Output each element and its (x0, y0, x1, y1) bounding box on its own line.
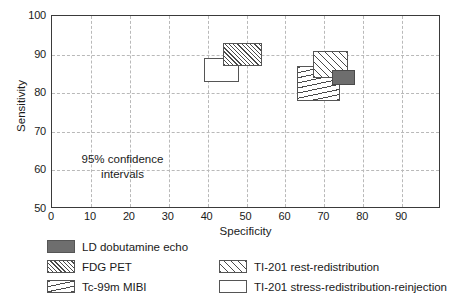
gridline-vertical (402, 16, 403, 207)
confidence-interval-annotation: 95% confidence intervals (60, 152, 185, 182)
x-axis-tick-label: 50 (240, 210, 252, 222)
y-axis-tick-label: 80 (20, 86, 46, 98)
legend-item-label: LD dobutamine echo (82, 241, 188, 253)
legend-item[interactable]: Tc-99m MIBI (47, 280, 147, 293)
confidence-interval-box (332, 70, 355, 85)
y-axis-tick-label: 70 (20, 125, 46, 137)
x-axis-tick-label: 20 (123, 210, 135, 222)
y-axis-tick-label: 100 (20, 9, 46, 21)
gridline-vertical (363, 16, 364, 207)
gridline-vertical (285, 16, 286, 207)
horizontal-lines-swatch (47, 280, 75, 293)
y-axis-title: Sensitivity (15, 51, 27, 161)
annotation-line-1: 95% confidence (60, 152, 185, 167)
legend-item[interactable]: TI-201 rest-redistribution (219, 260, 379, 273)
legend-item-label: TI-201 stress-redistribution-reinjection (254, 281, 447, 293)
x-axis-tick-label: 60 (278, 210, 290, 222)
x-axis-tick-label: 40 (201, 210, 213, 222)
y-axis-tick-label: 90 (20, 48, 46, 60)
gridline-horizontal (52, 93, 439, 94)
coarse-diagonal-hatch-swatch (219, 260, 247, 273)
legend-item-label: Tc-99m MIBI (82, 281, 147, 293)
annotation-line-2: intervals (60, 167, 185, 182)
legend-item[interactable]: TI-201 stress-redistribution-reinjection (219, 280, 447, 293)
gridline-horizontal (52, 132, 439, 133)
legend-item-label: TI-201 rest-redistribution (254, 261, 379, 273)
legend-item[interactable]: LD dobutamine echo (47, 240, 188, 253)
confidence-interval-box (223, 43, 262, 66)
empty-white-swatch (219, 280, 247, 293)
dense-diagonal-hatch-swatch (47, 260, 75, 273)
x-axis-tick-label: 10 (84, 210, 96, 222)
gridline-vertical (208, 16, 209, 207)
x-axis-tick-label: 30 (162, 210, 174, 222)
x-axis-tick-label: 80 (356, 210, 368, 222)
solid-gray-swatch (47, 240, 75, 253)
gridline-vertical (324, 16, 325, 207)
x-axis-tick-label: 70 (317, 210, 329, 222)
y-axis-tick-label: 60 (20, 163, 46, 175)
x-axis-tick-label: 90 (395, 210, 407, 222)
y-axis-tick-label: 50 (20, 202, 46, 214)
chart-legend: LD dobutamine echoFDG PETTc-99m MIBITI-2… (0, 238, 461, 303)
legend-item-label: FDG PET (82, 261, 132, 273)
x-axis-title: Specificity (51, 225, 440, 237)
legend-item[interactable]: FDG PET (47, 260, 132, 273)
x-axis-tick-label: 0 (48, 210, 54, 222)
chart-figure: Specificity Sensitivity 95% confidence i… (0, 0, 461, 303)
